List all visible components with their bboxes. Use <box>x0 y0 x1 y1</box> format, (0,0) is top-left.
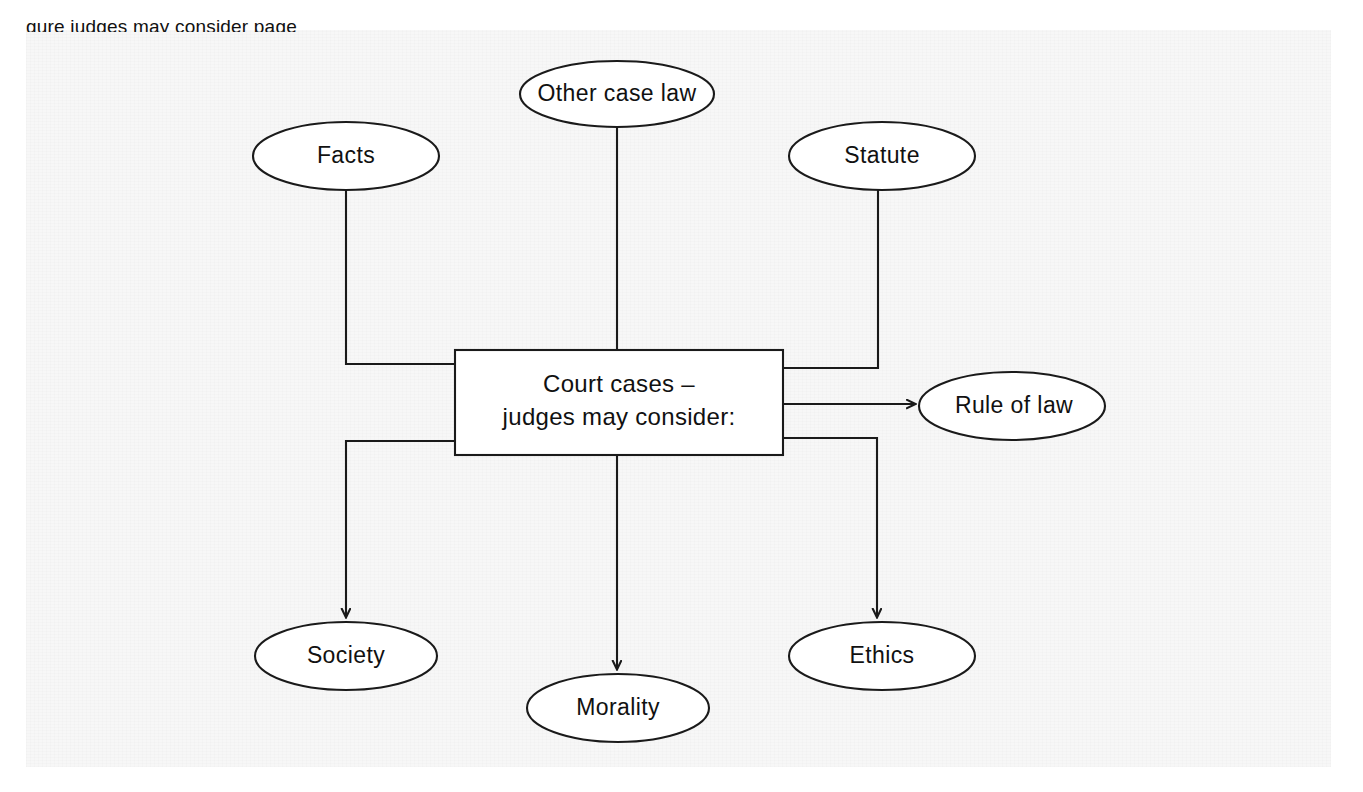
connector-box-to-society <box>346 441 455 617</box>
node-rule-of-law[interactable]: Rule of law <box>919 372 1105 440</box>
court-cases-box-label-line2: judges may consider: <box>502 403 736 430</box>
court-cases-box-label-line1: Court cases – <box>543 370 695 397</box>
figure-root: gure judges may consider page Court case… <box>0 0 1363 792</box>
node-statute[interactable]: Statute <box>789 122 975 190</box>
node-court-cases-box[interactable]: Court cases – judges may consider: <box>455 350 783 455</box>
connector-facts-to-box <box>346 190 455 364</box>
node-morality[interactable]: Morality <box>527 674 709 742</box>
concept-map-diagram: Court cases – judges may consider: Other… <box>0 0 1363 792</box>
node-facts[interactable]: Facts <box>253 122 439 190</box>
node-ethics[interactable]: Ethics <box>789 622 975 690</box>
society-label: Society <box>307 642 385 668</box>
ethics-label: Ethics <box>849 642 914 668</box>
node-other-case-law[interactable]: Other case law <box>520 61 714 127</box>
node-society[interactable]: Society <box>255 622 437 690</box>
connector-box-to-ethics <box>783 438 877 617</box>
morality-label: Morality <box>576 694 660 720</box>
statute-label: Statute <box>844 142 920 168</box>
other-case-law-label: Other case law <box>538 80 697 106</box>
facts-label: Facts <box>317 142 375 168</box>
rule-of-law-label: Rule of law <box>955 392 1073 418</box>
connector-statute-to-box <box>783 190 878 368</box>
